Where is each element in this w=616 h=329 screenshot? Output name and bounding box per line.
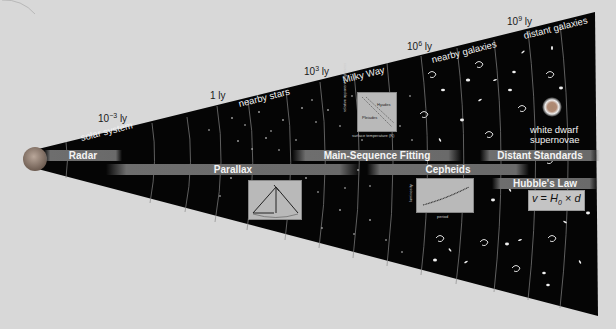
marker-1e9-ly: 109 ly — [507, 15, 532, 27]
cepheid-ylabel: luminosity — [408, 184, 413, 202]
cosmic-distance-ladder: 10−3 ly 1 ly 103 ly 106 ly 109 ly solar … — [0, 0, 616, 329]
marker-1-ly: 1 ly — [210, 90, 226, 101]
marker-1e6-ly: 106 ly — [407, 40, 432, 52]
white-dwarf-supernovae-label: white dwarf supernovae — [530, 125, 580, 145]
method-main-sequence-bar: Main-Sequence Fitting — [292, 150, 462, 161]
hyades-label: Hyades — [377, 102, 391, 107]
hr-diagram-inset: Hyades Pleiades — [357, 92, 397, 132]
hubble-formula: v = H0 × d — [528, 190, 585, 211]
period-luminosity-plot — [417, 179, 473, 212]
method-radar-bar: Radar — [44, 150, 122, 161]
hr-diagram-plot — [358, 93, 396, 131]
marker-1e3-ly: 103 ly — [304, 65, 329, 77]
hr-xlabel: surface temperature (K) — [352, 133, 394, 138]
parallax-triangle-icon — [249, 181, 301, 219]
cepheid-inset — [416, 178, 474, 213]
parallax-inset — [248, 180, 302, 220]
pleiades-label: Pleiades — [362, 115, 377, 120]
cepheid-xlabel: period — [437, 214, 448, 219]
method-distant-standards-bar: Distant Standards — [480, 150, 600, 161]
method-cepheids-bar: Cepheids — [367, 164, 529, 175]
method-parallax-bar: Parallax — [106, 164, 360, 175]
white-dwarf-supernova-icon — [542, 97, 562, 117]
hr-ylabel: relative apparent brightness — [342, 63, 347, 112]
method-hubble-bar: Hubble's Law — [492, 178, 598, 189]
